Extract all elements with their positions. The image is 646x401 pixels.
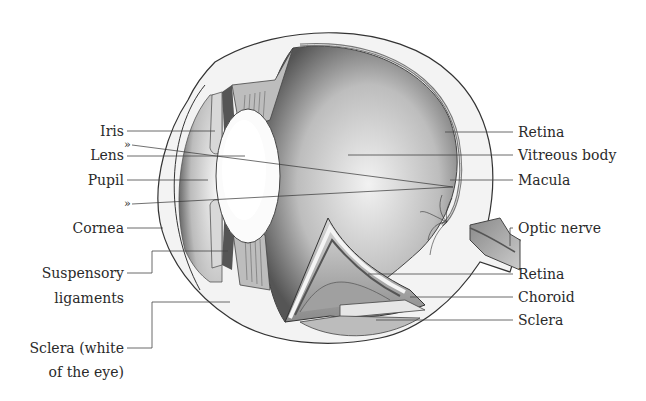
label-choroid: Choroid xyxy=(518,289,575,305)
label-optic-nerve: Optic nerve xyxy=(518,220,601,236)
label-retina-top: Retina xyxy=(518,124,564,140)
label-iris: Iris xyxy=(100,123,124,139)
eye-anatomy-diagram: Iris Lens Pupil Cornea Suspensory ligame… xyxy=(0,0,646,401)
arrow-marker-bottom: » xyxy=(124,196,131,212)
label-suspensory-line2: ligaments xyxy=(54,290,124,306)
label-macula: Macula xyxy=(518,172,570,188)
label-sclera-white-line1: Sclera (white xyxy=(29,340,124,356)
label-suspensory-line1: Suspensory xyxy=(42,265,124,281)
label-cornea: Cornea xyxy=(73,220,124,236)
label-vitreous-body: Vitreous body xyxy=(518,147,616,163)
label-sclera: Sclera xyxy=(518,312,563,328)
label-pupil: Pupil xyxy=(88,172,124,188)
label-lens: Lens xyxy=(90,147,124,163)
label-sclera-white-line2: of the eye) xyxy=(49,364,124,380)
arrow-marker-top: » xyxy=(124,137,131,153)
label-retina-bottom: Retina xyxy=(518,266,564,282)
